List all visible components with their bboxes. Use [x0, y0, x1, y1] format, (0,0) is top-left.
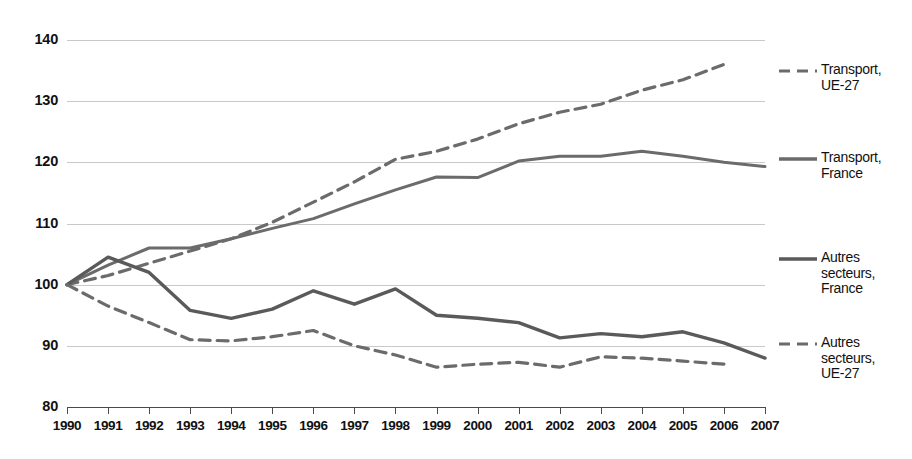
legend-swatch-dashed-icon [778, 64, 818, 78]
legend-label: Transport, France [821, 150, 881, 181]
chart-legend: Transport, UE-27Transport, FranceAutres … [778, 0, 912, 459]
series-line-1 [67, 151, 765, 284]
legend-item-0[interactable]: Transport, UE-27 [778, 62, 912, 93]
series-line-0 [67, 65, 724, 285]
legend-item-2[interactable]: Autres secteurs, France [778, 250, 912, 297]
legend-item-3[interactable]: Autres secteurs, UE-27 [778, 335, 912, 382]
legend-label: Autres secteurs, France [821, 250, 875, 297]
legend-swatch-solid-icon [778, 152, 818, 166]
series-line-2 [67, 257, 765, 358]
legend-swatch-solid-icon [778, 252, 818, 266]
legend-item-1[interactable]: Transport, France [778, 150, 912, 181]
legend-label: Autres secteurs, UE-27 [821, 335, 875, 382]
series-line-3 [67, 285, 724, 368]
legend-swatch-dashed-icon [778, 337, 818, 351]
legend-label: Transport, UE-27 [821, 62, 881, 93]
line-chart: 1401301201101009080 19901991199219931994… [0, 0, 912, 459]
series-layer [0, 0, 912, 459]
